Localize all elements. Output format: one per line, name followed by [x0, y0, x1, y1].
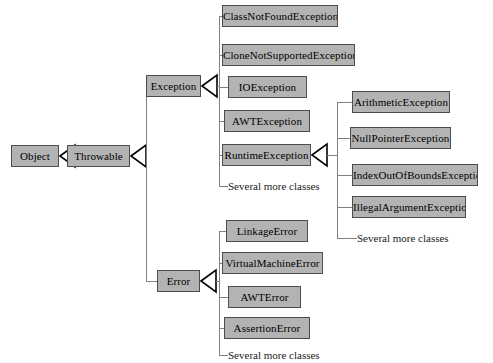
class-node-iae: IllegalArgumentException	[352, 196, 466, 218]
class-node-ioobe: IndexOutOfBoundsException	[352, 164, 478, 186]
class-node-ioe: IOException	[228, 76, 307, 98]
class-node-rte_more: Several more classes	[357, 229, 467, 247]
class-node-arith: ArithmeticException	[352, 91, 450, 113]
class-node-npe: NullPointerException	[350, 127, 451, 149]
class-node-linkage: LinkageError	[226, 220, 308, 242]
class-node-cnse: CloneNotSupportedException	[222, 44, 355, 66]
class-node-throwable: Throwable	[67, 145, 130, 167]
class-node-object: Object	[11, 145, 59, 167]
class-node-cnfe: ClassNotFoundException	[222, 5, 338, 27]
class-node-awterr: AWTError	[228, 286, 301, 308]
class-hierarchy-diagram: ObjectThrowableExceptionErrorClassNotFou…	[0, 0, 493, 363]
class-node-awte: AWTException	[224, 110, 310, 132]
class-node-exception: Exception	[146, 75, 201, 97]
class-node-err_more: Several more classes	[228, 346, 338, 363]
class-node-asserterr: AssertionError	[224, 317, 310, 339]
class-node-rte: RuntimeException	[222, 144, 311, 166]
class-node-exc_more: Several more classes	[228, 177, 338, 195]
class-node-error: Error	[157, 270, 200, 292]
class-node-vme: VirtualMachineError	[222, 252, 323, 274]
